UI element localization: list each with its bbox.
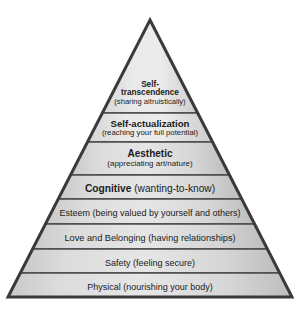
tier-title: Physical — [87, 282, 123, 292]
tier-title: Esteem — [59, 208, 92, 218]
tier-title: Love and Belonging — [64, 233, 148, 243]
tier-physical[interactable]: Physical (nourishing your body) — [0, 277, 300, 294]
tier-subtitle: (being valued by yourself and others) — [92, 208, 240, 218]
tier-title: Cognitive — [85, 183, 134, 194]
tier-subtitle: (nourishing your body) — [123, 282, 213, 292]
pyramid-diagram: Self- transcendence (sharing altruistica… — [0, 0, 300, 312]
tier-self-transcendence[interactable]: Self- transcendence (sharing altruistica… — [0, 81, 300, 106]
tier-subtitle: (feeling secure) — [133, 258, 195, 268]
tier-aesthetic[interactable]: Aesthetic (appreciating art/nature) — [0, 149, 300, 168]
tier-subtitle: (sharing altruistically) — [0, 98, 300, 106]
tier-love-and-belonging[interactable]: Love and Belonging (having relationships… — [0, 228, 300, 245]
tier-self-actualization[interactable]: Self-actualization (reaching your full p… — [0, 119, 300, 137]
tier-subtitle: (having relationships) — [148, 233, 235, 243]
tier-title: Safety — [105, 258, 133, 268]
tier-title: Aesthetic — [0, 149, 300, 160]
tier-subtitle: (appreciating art/nature) — [0, 160, 300, 168]
tier-subtitle: (reaching your full potential) — [0, 129, 300, 137]
tier-subtitle: (wanting-to-know) — [134, 183, 215, 194]
tier-cognitive[interactable]: Cognitive (wanting-to-know) — [0, 179, 300, 196]
tier-esteem[interactable]: Esteem (being valued by yourself and oth… — [0, 203, 300, 220]
tier-safety[interactable]: Safety (feeling secure) — [0, 253, 300, 270]
